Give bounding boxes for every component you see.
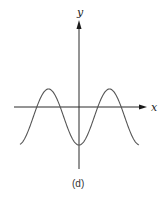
- plot-figure: y x (d): [0, 0, 168, 197]
- y-axis-arrow-icon: [77, 20, 82, 29]
- figure-caption: (d): [72, 178, 84, 189]
- x-axis-arrow-icon: [139, 105, 147, 110]
- y-axis-label: y: [76, 6, 84, 19]
- x-axis-label: x: [151, 101, 158, 114]
